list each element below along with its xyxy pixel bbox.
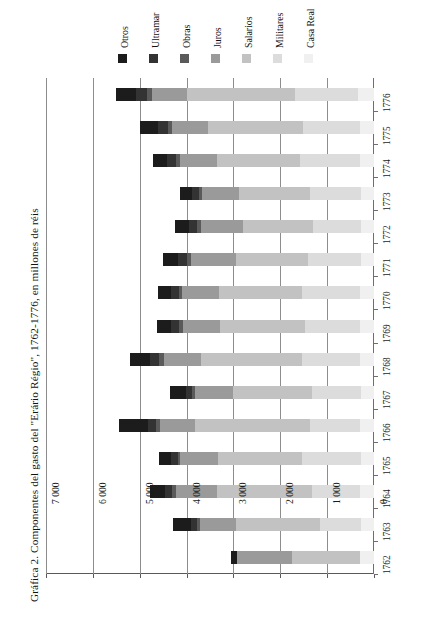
segment-otros-1765 [159,452,171,465]
y-tick-mark-1762 [374,574,378,575]
legend-item-salarios[interactable]: Salarios [234,4,264,74]
segment-casa-real-1775 [360,121,374,134]
y-tick-mark-1772 [374,243,378,244]
legend-item-casa-real[interactable]: Casa Real [296,4,326,74]
y-tick-mark-1764 [374,508,378,509]
bar-stack-1775 [140,121,374,134]
segment-militares-1776 [295,88,358,101]
segment-militares-1765 [302,452,361,465]
legend-item-juros[interactable]: Juros [203,4,233,74]
y-tick-label-1762: 1762 [382,556,392,575]
bar-stack-1763 [173,518,374,531]
segment-juros-1769 [183,320,220,333]
legend-label-juros: Juros [212,27,223,48]
bar-1764 [46,485,374,498]
legend-label-casa-real: Casa Real [305,9,316,48]
y-tick-label-1770: 1770 [382,291,392,310]
legend-swatch-militares [273,54,282,63]
bar-1766 [46,419,374,432]
bar-1774 [46,154,374,167]
x-axis-line [46,573,374,574]
segment-otros-1767 [170,386,186,399]
segment-ultramar-1771 [178,253,187,266]
segment-salarios-1762 [292,551,360,564]
segment-ultramar-1766 [148,419,156,432]
legend-swatch-salarios [242,54,251,63]
segment-casa-real-1770 [360,286,374,299]
y-tick-label-1773: 1773 [382,192,392,211]
segment-casa-real-1765 [361,452,374,465]
bar-1775 [46,121,374,134]
segment-salarios-1776 [187,88,295,101]
segment-militares-1770 [302,286,360,299]
segment-otros-1763 [173,518,191,531]
legend-swatch-ultramar [149,54,158,63]
y-tick-mark-1767 [374,409,378,410]
legend-item-militares[interactable]: Militares [265,4,295,74]
segment-casa-real-1766 [360,419,374,432]
x-tick-label-1000: 1 000 [331,482,342,504]
segment-militares-1771 [308,253,361,266]
segment-ultramar-1772 [189,220,197,233]
y-tick-label-1763: 1763 [382,523,392,542]
segment-salarios-1764 [217,485,312,498]
segment-otros-1775 [140,121,159,134]
bar-1768 [46,353,374,366]
y-tick-mark-1766 [374,442,378,443]
plot-area [46,78,374,574]
y-tick-label-1766: 1766 [382,424,392,443]
segment-juros-1773 [202,187,239,200]
y-tick-mark-1769 [374,343,378,344]
segment-juros-1774 [180,154,217,167]
y-tick-mark-1771 [374,276,378,277]
bar-1762 [46,551,374,564]
legend-swatch-casa-real [304,54,313,63]
bar-stack-1773 [180,187,373,200]
bar-stack-1768 [130,353,374,366]
segment-salarios-1770 [219,286,302,299]
segment-juros-1762 [237,551,292,564]
x-tick-6000 [93,574,94,578]
segment-ultramar-1776 [136,88,147,101]
x-tick-4000 [187,574,188,578]
segment-salarios-1774 [217,154,300,167]
segment-salarios-1766 [195,419,310,432]
segment-juros-1772 [201,220,243,233]
legend-item-otros[interactable]: Otros [110,4,140,74]
segment-juros-1771 [191,253,236,266]
segment-salarios-1775 [208,121,303,134]
segment-casa-real-1774 [360,154,374,167]
segment-militares-1773 [310,187,361,200]
bar-1767 [46,386,374,399]
segment-casa-real-1767 [361,386,374,399]
segment-militares-1774 [300,154,360,167]
legend-item-ultramar[interactable]: Ultramar [141,4,171,74]
bar-stack-1766 [119,419,374,432]
legend-item-obras[interactable]: Obras [172,4,202,74]
y-tick-label-1764: 1764 [382,490,392,509]
y-tick-mark-1773 [374,210,378,211]
segment-ultramar-1768 [150,353,160,366]
segment-otros-1770 [158,286,172,299]
segment-casa-real-1771 [361,253,374,266]
bar-stack-1762 [231,551,374,564]
x-tick-label-5000: 5 000 [144,482,155,504]
bar-stack-1774 [153,154,374,167]
segment-salarios-1771 [236,253,308,266]
legend-label-obras: Obras [181,25,192,48]
bar-stack-1765 [159,452,374,465]
segment-ultramar-1775 [158,121,168,134]
segment-ultramar-1770 [171,286,179,299]
y-tick-label-1768: 1768 [382,357,392,376]
x-tick-label-3000: 3 000 [237,482,248,504]
bar-stack-1770 [158,286,374,299]
figure-title: Gráfica 2. Componentes del gasto del "Er… [28,2,40,602]
segment-salarios-1769 [220,320,305,333]
segment-juros-1768 [164,353,201,366]
x-tick-label-2000: 2 000 [284,482,295,504]
segment-otros-1774 [153,154,167,167]
segment-salarios-1763 [236,518,319,531]
y-tick-mark-1768 [374,376,378,377]
x-tick-label-7000: 7 000 [50,482,61,504]
segment-juros-1765 [180,452,217,465]
